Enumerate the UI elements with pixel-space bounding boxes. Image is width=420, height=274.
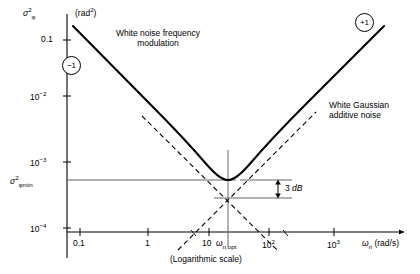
x-tick-label-0-text: 0.1 — [73, 238, 85, 248]
x-axis-omega: ω — [362, 238, 369, 248]
y-tick-label-0: 0.1 — [41, 34, 53, 44]
y-axis-title: σ2φ — [23, 6, 36, 20]
left-region-annotation: White noise frequency modulation — [92, 28, 224, 48]
x-tick-label-3: 102 — [262, 238, 275, 250]
asymptote-slope-plus-one — [178, 112, 316, 250]
log-scale-note-text: (Logarithmic scale) — [170, 254, 242, 264]
left-region-line2: modulation — [137, 38, 179, 48]
y-tick-label-1-exp: −2 — [39, 90, 46, 97]
y-axis-sigma-subscript: φ — [32, 13, 36, 20]
right-region-line2: additive noise — [329, 110, 381, 120]
right-region-annotation: White Gaussian additive noise — [329, 100, 389, 120]
x-tick-label-1: 1 — [145, 238, 150, 248]
x-axis-omega-subscript: n — [369, 243, 372, 250]
log-scale-note: (Logarithmic scale) — [170, 254, 242, 264]
left-region-line1: White noise frequency — [116, 28, 200, 38]
x-axis-unit-text: (rad/s) — [374, 238, 399, 248]
y-axis-unit-close: ) — [94, 8, 97, 18]
three-db-label: 3 dB — [285, 183, 303, 193]
y-tick-label-2: 10−3 — [30, 156, 47, 168]
three-db-arrow — [275, 180, 281, 199]
y-tick-label-0-text: 0.1 — [41, 34, 53, 44]
x-tick-label-4: 103 — [327, 238, 340, 250]
x-tick-label-2: 10 — [202, 238, 211, 248]
chart-figure: σ2φ (rad2) 0.1 10−2 10−3 10−4 σ2φmin 0.1… — [0, 0, 420, 274]
x-tick-label-3-exp: 2 — [271, 238, 274, 245]
x-axis-arrow — [399, 229, 404, 234]
y-tick-label-1: 10−2 — [30, 90, 47, 102]
omega-n-opt-label: ωn,opt — [216, 238, 236, 250]
slope-plus-one-text: +1 — [360, 18, 369, 27]
x-axis-title: ωn (rad/s) — [362, 238, 399, 250]
sigma-min-subscript: φmin — [19, 181, 33, 188]
three-db-number: 3 — [285, 183, 290, 193]
y-axis-unit-open: (rad — [75, 8, 90, 18]
slope-minus-one-text: −1 — [67, 61, 76, 70]
slope-plus-one-badge: +1 — [355, 13, 374, 32]
y-tick-label-3-exp: −4 — [39, 222, 46, 229]
x-tick-label-0: 0.1 — [73, 238, 85, 248]
three-db-unit: dB — [292, 183, 302, 193]
x-tick-label-4-exp: 3 — [336, 238, 339, 245]
sigma-phi-min-label: σ2φmin — [10, 174, 33, 188]
decoration-tick-right — [283, 230, 288, 236]
x-tick-label-2-text: 10 — [202, 238, 211, 248]
y-axis-unit: (rad2) — [75, 6, 96, 18]
y-tick-label-3: 10−4 — [30, 222, 47, 234]
x-tick-label-1-text: 1 — [145, 238, 150, 248]
slope-minus-one-badge: −1 — [62, 56, 81, 75]
omega-opt-symbol: ω — [216, 238, 223, 248]
omega-opt-subscript: n,opt — [223, 243, 237, 250]
y-tick-label-2-exp: −3 — [39, 156, 46, 163]
right-region-line1: White Gaussian — [329, 100, 389, 110]
